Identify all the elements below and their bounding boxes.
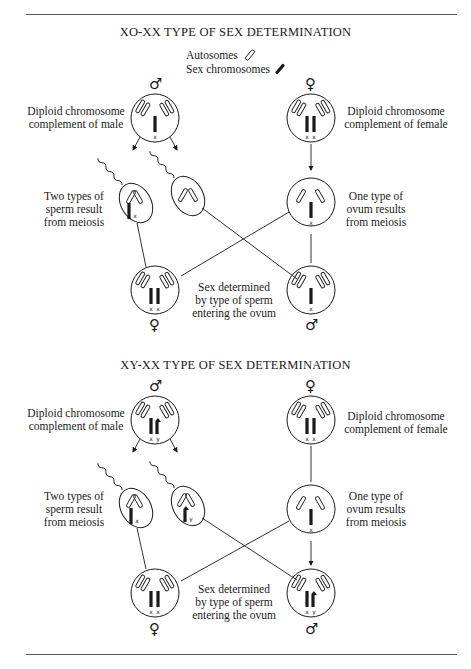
offspring-label-2-line3: entering the ovum [186,609,282,622]
svg-text:x: x [149,435,153,442]
male-parent-label-line1: Diploid chromosome [24,105,128,118]
male-parent-label: Diploid chromosome complement of male [24,105,128,131]
offspring-label-2-line2: by type of sperm [186,596,282,609]
svg-text:x: x [156,608,160,615]
sperm-label-2: Two types of sperm result from meiosis [40,490,108,529]
svg-text:x: x [305,435,309,442]
ovum-label-line3: from meiosis [343,216,409,229]
sperm-o-1 [149,150,212,221]
male-parent-label-2-line2: complement of male [24,420,128,433]
svg-text:y: y [189,515,193,523]
sperm-label-2-line3: from meiosis [40,516,108,529]
diagram-graphics: x xx x x xx x xy xx x y x xx xy [0,0,471,669]
male-parent-label-2: Diploid chromosome complement of male [24,407,128,433]
svg-text:y: y [156,435,160,443]
female-symbol-icon-2: ♀ [305,379,316,394]
female-parent-cell-1 [287,94,335,142]
female-parent-label-2: Diploid chromosome complement of female [340,410,452,436]
male-symbol-icon-2: ♂ [149,379,162,394]
ovum-label-2: One type of ovum results from meiosis [343,490,409,529]
ovum-label: One type of ovum results from meiosis [343,190,409,229]
sperm-label-line1: Two types of [40,190,108,203]
svg-text:x: x [135,517,139,524]
svg-text:x: x [309,526,313,533]
sperm-label-2-line2: sperm result [40,503,108,516]
svg-text:x: x [312,435,316,442]
ovum-label-line1: One type of [343,190,409,203]
sperm-label-line3: from meiosis [40,216,108,229]
male-parent-cell-2 [131,396,179,444]
svg-text:x: x [156,305,160,312]
svg-text:x: x [305,608,309,615]
legend-autosomes-label: Autosomes [186,49,238,62]
svg-text:x: x [133,212,137,219]
offspring-label-2-line1: Sex determined [186,583,282,596]
offspring-male-symbol-icon: ♂ [305,318,318,333]
ovum-label-2-line3: from meiosis [343,516,409,529]
female-parent-label-2-line2: complement of female [340,423,452,436]
offspring-female-symbol-icon: ♀ [149,318,160,333]
female-parent-label-line1: Diploid chromosome [340,105,452,118]
female-parent-label-2-line1: Diploid chromosome [340,410,452,423]
svg-text:x: x [309,305,313,312]
offspring-male-cell-2 [287,569,335,617]
svg-text:x: x [149,608,153,615]
svg-text:x: x [305,133,309,140]
female-symbol-icon: ♀ [305,77,316,92]
sperm-label: Two types of sperm result from meiosis [40,190,108,229]
svg-text:x: x [149,305,153,312]
svg-text:x: x [312,133,316,140]
ovum-label-2-line2: ovum results [343,503,409,516]
male-parent-label-line2: complement of male [24,118,128,131]
sex-chromosome-legend-icon [275,63,285,74]
offspring-label-line1: Sex determined [186,281,282,294]
offspring-male-symbol-icon-2: ♂ [305,622,318,637]
sperm-label-2-line1: Two types of [40,490,108,503]
female-parent-label: Diploid chromosome complement of female [340,105,452,131]
offspring-female-cell-2 [131,569,179,617]
svg-text:x: x [153,133,157,140]
offspring-label: Sex determined by type of sperm entering… [186,281,282,320]
offspring-female-cell-1 [131,266,179,314]
offspring-label-line2: by type of sperm [186,294,282,307]
offspring-label-line3: entering the ovum [186,307,282,320]
offspring-female-symbol-icon-2: ♀ [149,622,160,637]
diagram-title-xo-xx: XO-XX TYPE OF SEX DETERMINATION [0,25,471,40]
ovum-label-2-line1: One type of [343,490,409,503]
male-parent-label-2-line1: Diploid chromosome [24,407,128,420]
legend-sex-chromosomes-label: Sex chromosomes [186,63,270,76]
ovum-label-line2: ovum results [343,203,409,216]
sperm-label-line2: sperm result [40,203,108,216]
female-parent-label-line2: complement of female [340,118,452,131]
male-symbol-icon: ♂ [149,77,162,92]
female-parent-cell-2 [287,396,335,444]
svg-text:x: x [309,219,313,226]
svg-text:y: y [312,608,316,616]
sperm-y-2 [149,460,212,531]
diagram-title-xy-xx: XY-XX TYPE OF SEX DETERMINATION [0,358,471,373]
offspring-label-2: Sex determined by type of sperm entering… [186,583,282,622]
autosome-legend-icon [245,49,255,61]
